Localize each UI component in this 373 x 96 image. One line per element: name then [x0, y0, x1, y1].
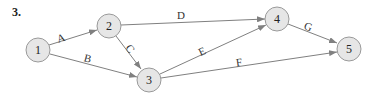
node-3: 3	[137, 68, 161, 92]
node-label-1: 1	[35, 43, 41, 57]
edge-label-f: F	[235, 56, 243, 69]
node-label-2: 2	[106, 19, 112, 33]
edge-c: C	[116, 36, 141, 69]
node-4: 4	[265, 7, 289, 31]
edge-b: B	[50, 51, 137, 77]
network-diagram: 3. A B C D E F	[0, 0, 373, 96]
edge-label-c: C	[123, 42, 137, 55]
node-2: 2	[97, 14, 121, 38]
edge-g: G	[288, 19, 337, 43]
edge-d: D	[121, 9, 265, 25]
edge-label-b: B	[83, 51, 93, 64]
edge-e: E	[160, 25, 266, 74]
node-label-4: 4	[274, 12, 280, 26]
node-1: 1	[26, 38, 50, 62]
diagram-canvas: A B C D E F G 1	[0, 0, 373, 96]
edge-f: F	[161, 52, 337, 78]
edge-label-g: G	[302, 19, 314, 33]
edge-label-d: D	[177, 9, 185, 21]
edge-a: A	[49, 30, 97, 45]
node-5: 5	[337, 37, 361, 61]
node-label-5: 5	[346, 42, 352, 56]
node-label-3: 3	[146, 73, 152, 87]
